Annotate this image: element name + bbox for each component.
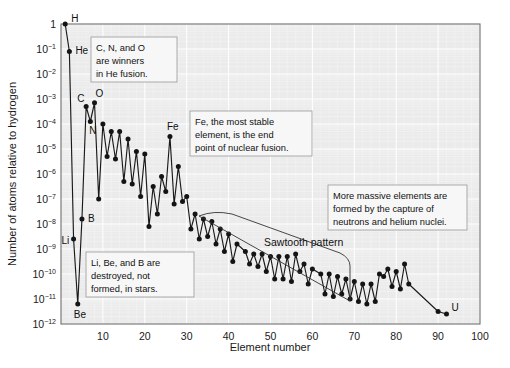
data-point	[197, 237, 202, 242]
data-point	[360, 282, 365, 287]
data-point	[71, 237, 76, 242]
x-tick-label: 90	[432, 330, 444, 342]
data-point	[230, 259, 235, 264]
libeb-destroyed-callout-line-1: Li, Be, and B are	[91, 258, 160, 268]
element-label-he: He	[75, 45, 88, 56]
he-fusion-callout-line-3: in He fusion.	[96, 69, 148, 79]
data-point	[331, 294, 336, 299]
data-point	[364, 302, 369, 307]
element-label-li: Li	[62, 235, 70, 246]
libeb-destroyed-callout: Li, Be, and B are destroyed, not formed,…	[86, 252, 194, 297]
data-point	[75, 302, 80, 307]
data-point	[352, 279, 357, 284]
libeb-destroyed-callout-line-2: destroyed, not	[91, 271, 150, 281]
data-point	[176, 164, 181, 169]
data-point	[293, 252, 298, 257]
data-point	[159, 174, 164, 179]
chart-svg: 110−110−210−310−410−510−610−710−810−910−…	[0, 0, 510, 368]
x-tick-label: 20	[139, 330, 151, 342]
data-point	[377, 272, 382, 277]
data-point	[302, 262, 307, 267]
data-point	[251, 252, 256, 257]
he-fusion-callout-line-2: are winners	[96, 56, 144, 66]
element-label-b: B	[88, 213, 95, 224]
x-axis-title: Element number	[230, 341, 311, 353]
data-point	[327, 272, 332, 277]
data-point	[105, 154, 110, 159]
x-tick-label: 80	[390, 330, 402, 342]
data-point	[100, 122, 105, 127]
fe-stability-callout-line-1: Fe, the most stable	[195, 117, 274, 127]
data-point	[163, 189, 168, 194]
data-point	[343, 277, 348, 282]
x-tick-label: 70	[348, 330, 360, 342]
data-point	[151, 184, 156, 189]
sawtooth-pattern-label: Sawtooth pattern	[264, 236, 344, 248]
x-tick-label: 30	[181, 330, 193, 342]
fe-stability-callout: Fe, the most stable element, is the end …	[190, 111, 312, 156]
he-fusion-callout: C, N, and O are winners in He fusion.	[91, 37, 177, 82]
massive-elements-callout-line-3: neutrons and helium nuclei.	[333, 217, 447, 227]
data-point	[255, 264, 260, 269]
data-point	[436, 309, 441, 314]
data-point	[184, 194, 189, 199]
element-label-u: U	[451, 302, 458, 313]
y-tick-label: 1	[50, 18, 56, 30]
data-point	[67, 49, 72, 54]
abundance-chart-figure: 110−110−210−310−410−510−610−710−810−910−…	[0, 0, 510, 368]
data-point	[63, 22, 68, 27]
data-point	[109, 129, 114, 134]
data-point	[402, 262, 407, 267]
data-point	[285, 254, 290, 259]
data-point	[193, 212, 198, 217]
data-point	[318, 272, 323, 277]
massive-elements-callout: More massive elements are formed by the …	[328, 185, 467, 230]
data-point	[289, 279, 294, 284]
data-point	[126, 137, 131, 142]
data-point	[234, 242, 239, 247]
massive-elements-callout-line-1: More massive elements are	[333, 191, 447, 201]
data-point	[406, 282, 411, 287]
data-point	[444, 312, 449, 317]
data-point	[369, 282, 374, 287]
data-point	[134, 149, 139, 154]
data-point	[247, 262, 252, 267]
data-point	[180, 199, 185, 204]
data-point	[243, 249, 248, 254]
data-point	[113, 157, 118, 162]
data-point	[205, 234, 210, 239]
data-point	[142, 152, 147, 157]
data-point	[385, 267, 390, 272]
data-point	[222, 249, 227, 254]
element-label-h: H	[71, 13, 78, 24]
data-point	[84, 104, 89, 109]
data-point	[130, 182, 135, 187]
libeb-destroyed-callout-line-3: formed, in stars.	[91, 284, 158, 294]
data-point	[96, 197, 101, 202]
data-point	[335, 274, 340, 279]
massive-elements-callout-line-2: formed by the capture of	[333, 204, 434, 214]
data-point	[138, 194, 143, 199]
data-point	[306, 282, 311, 287]
data-point	[92, 100, 97, 105]
data-point	[276, 254, 281, 259]
data-point	[121, 179, 126, 184]
data-point	[167, 134, 172, 139]
data-point	[398, 287, 403, 292]
element-label-o: O	[96, 88, 104, 99]
data-point	[390, 284, 395, 289]
element-label-be: Be	[74, 309, 87, 320]
data-point	[381, 274, 386, 279]
data-point	[373, 299, 378, 304]
data-point	[172, 202, 177, 207]
data-point	[264, 269, 269, 274]
he-fusion-callout-line-1: C, N, and O	[96, 43, 145, 53]
data-point	[88, 119, 93, 124]
data-point	[322, 292, 327, 297]
data-point	[214, 242, 219, 247]
element-label-n: N	[89, 125, 96, 136]
data-point	[281, 277, 286, 282]
data-point	[394, 269, 399, 274]
data-point	[79, 217, 84, 222]
element-label-fe: Fe	[167, 121, 179, 132]
